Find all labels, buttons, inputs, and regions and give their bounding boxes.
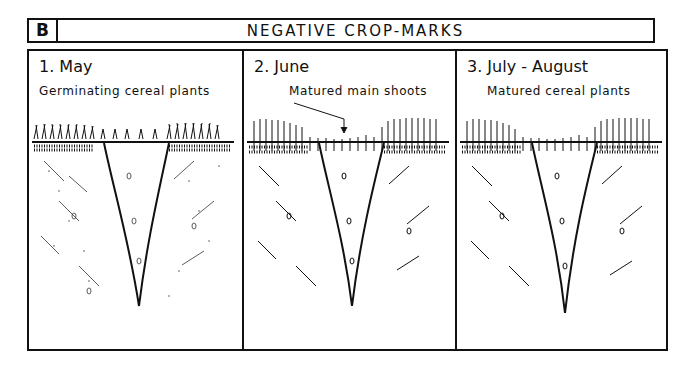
ditch-cross-section-illustration — [457, 51, 668, 351]
panel-july-august: 3. July - August Matured cereal plants — [457, 51, 668, 349]
ditch-cross-section-illustration — [244, 51, 455, 351]
figure-title: NEGATIVE CROP-MARKS — [58, 20, 653, 42]
ditch-cross-section-illustration — [29, 51, 242, 351]
panel-june: 2. June Matured main shoots — [244, 51, 455, 349]
germinating-plants-icon — [34, 123, 219, 139]
panel-may: 1. May Germinating cereal plants — [29, 51, 242, 349]
figure-header: B NEGATIVE CROP-MARKS — [27, 18, 655, 43]
figure-label: B — [29, 20, 58, 41]
mature-cereal-plants-icon — [467, 118, 649, 151]
mature-shoots-icon — [254, 118, 436, 151]
arrow-pointer-icon — [294, 103, 344, 131]
diagram-frame: 1. May Germinating cereal plants — [27, 49, 668, 351]
